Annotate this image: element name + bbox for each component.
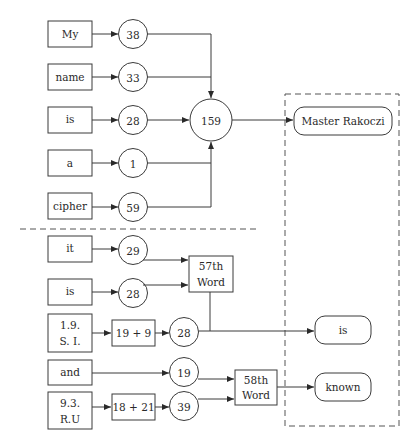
word-label: it bbox=[66, 242, 74, 254]
word-node-9-3-ru: 9.3. R.U bbox=[48, 392, 92, 429]
result-pill-known: known bbox=[315, 373, 371, 401]
sum-circle-159: 159 bbox=[190, 99, 232, 141]
value-label: 59 bbox=[126, 202, 139, 214]
word-node-and: and bbox=[48, 360, 92, 385]
word-label: My bbox=[62, 28, 79, 40]
word-node-is-lower: is bbox=[48, 279, 92, 305]
value-circle-19: 19 bbox=[170, 358, 199, 387]
word-58th-box: 58th Word bbox=[235, 370, 277, 405]
word58-line2: Word bbox=[242, 389, 270, 401]
ref-line2: R.U bbox=[60, 413, 80, 425]
value-label: 33 bbox=[126, 72, 139, 84]
sum-label: 159 bbox=[201, 115, 221, 127]
value-circle-28-third: 28 bbox=[170, 318, 199, 347]
ref-line1: 1.9. bbox=[60, 319, 80, 331]
word57-line2: Word bbox=[197, 276, 225, 288]
ref-line2: S. I. bbox=[60, 335, 81, 347]
value-label: 29 bbox=[126, 245, 139, 257]
value-circle-28: 28 bbox=[119, 106, 148, 135]
ref-line1: 9.3. bbox=[60, 397, 80, 409]
result-pill-is: is bbox=[315, 316, 371, 344]
expr-label: 19 + 9 bbox=[116, 327, 152, 339]
word-label: name bbox=[55, 71, 84, 83]
word-node-my: My bbox=[48, 21, 92, 47]
value-circle-38: 38 bbox=[119, 20, 148, 49]
word-node-name: name bbox=[48, 64, 92, 90]
word-node-cipher: cipher bbox=[48, 193, 92, 219]
value-circle-39: 39 bbox=[170, 392, 199, 421]
word-label: is bbox=[66, 285, 75, 297]
value-circle-59: 59 bbox=[119, 193, 148, 222]
word-57th-box: 57th Word bbox=[189, 256, 233, 292]
value-label: 28 bbox=[177, 327, 190, 339]
value-label: 28 bbox=[126, 115, 139, 127]
word-label: a bbox=[67, 157, 73, 169]
word-node-is: is bbox=[48, 107, 92, 133]
result-label: known bbox=[325, 381, 360, 393]
expr-box-18-plus-21: 18 + 21 bbox=[112, 394, 155, 420]
word-label: is bbox=[66, 113, 75, 125]
value-label: 28 bbox=[126, 288, 139, 300]
word-node-a: a bbox=[48, 150, 92, 176]
value-label: 38 bbox=[126, 29, 139, 41]
value-circle-33: 33 bbox=[119, 63, 148, 92]
expr-label: 18 + 21 bbox=[112, 401, 154, 413]
word58-line1: 58th bbox=[244, 374, 269, 386]
edge-59-to-sum bbox=[148, 142, 212, 207]
result-pill-master-rakoczi: Master Rakoczi bbox=[294, 107, 392, 135]
word-node-1-9-si: 1.9. S. I. bbox=[48, 314, 92, 352]
word57-line1: 57th bbox=[199, 260, 224, 272]
value-circle-1: 1 bbox=[119, 149, 148, 178]
value-label: 1 bbox=[130, 158, 137, 170]
expr-box-19-plus-9: 19 + 9 bbox=[112, 320, 155, 346]
word-label: cipher bbox=[53, 200, 88, 212]
result-label: is bbox=[339, 324, 348, 336]
value-circle-28-lower: 28 bbox=[119, 279, 148, 308]
word-label: and bbox=[60, 366, 80, 378]
value-label: 39 bbox=[177, 401, 190, 413]
value-label: 19 bbox=[177, 367, 190, 379]
edge-38-to-sum bbox=[148, 34, 212, 98]
word-node-it: it bbox=[48, 236, 92, 262]
cipher-diagram: My 38 name 33 is 28 a 1 cipher 59 bbox=[0, 0, 417, 443]
result-label: Master Rakoczi bbox=[301, 115, 385, 127]
